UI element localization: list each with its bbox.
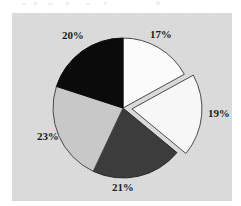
figure-canvas: 17% 19% 21% 23% 20% <box>0 0 241 206</box>
pie-slices-group <box>53 38 202 178</box>
pie-slice-label-23: 23% <box>37 131 59 142</box>
pie-slice-label-20: 20% <box>62 30 84 41</box>
pie-chart <box>0 0 241 206</box>
pie-slice-label-21: 21% <box>112 182 134 193</box>
pie-slice-label-19: 19% <box>208 108 230 119</box>
pie-slice-label-17: 17% <box>150 29 172 40</box>
